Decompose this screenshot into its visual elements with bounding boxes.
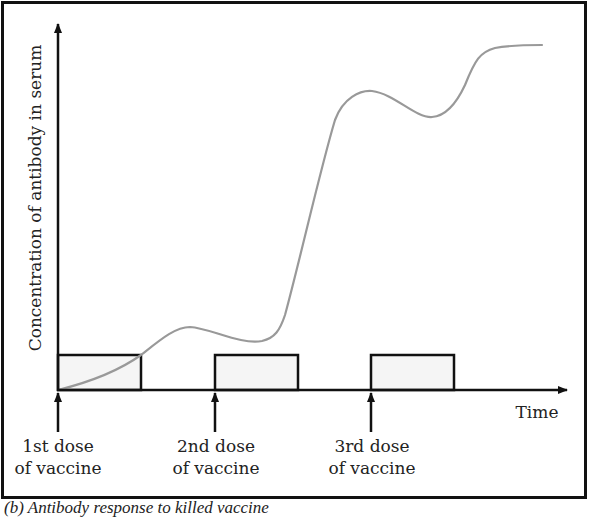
dose-label-3-line2: of vaccine	[328, 458, 415, 478]
x-axis-label: Time	[516, 402, 559, 422]
dose-box-3	[371, 355, 454, 390]
dose-box-1	[58, 355, 141, 390]
y-axis-label: Concentration of antibody in serum	[25, 45, 45, 352]
antibody-curve	[58, 45, 542, 390]
dose-label-3-line1: 3rd dose	[334, 436, 409, 456]
figure-caption: (b) Antibody response to killed vaccine	[4, 498, 269, 518]
dose-boxes	[58, 355, 454, 390]
dose-box-2	[215, 355, 298, 390]
dose-label-2-line2: of vaccine	[172, 458, 259, 478]
dose-label-1-line1: 1st dose	[22, 436, 94, 456]
dose-label-2-line1: 2nd dose	[177, 436, 255, 456]
dose-label-1-line2: of vaccine	[14, 458, 101, 478]
